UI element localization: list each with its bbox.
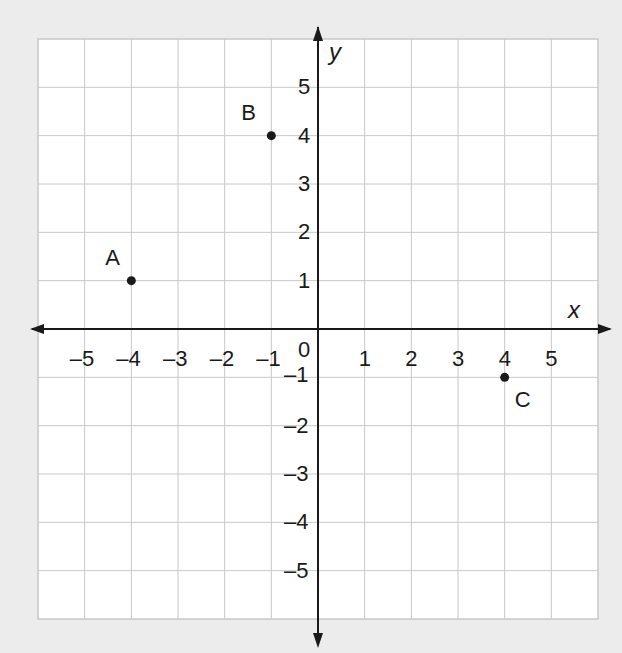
x-tick-label: 3 [452,348,464,370]
y-axis-down-arrow-icon [313,633,323,648]
y-tick-label: 1 [298,270,310,292]
y-tick-label: 4 [298,125,310,147]
point-a [127,276,136,285]
origin-label: 0 [298,339,310,361]
x-tick-label: 1 [359,348,371,370]
x-tick-label: –3 [163,348,187,370]
point-label-c: C [515,389,531,411]
y-tick-label: 5 [298,76,310,98]
y-tick-label: –5 [284,560,308,582]
y-tick-label: 2 [298,221,310,243]
y-tick-label: –2 [284,415,308,437]
x-axis-left-arrow-icon [30,324,44,334]
point-c [500,373,509,382]
point-label-b: B [241,102,256,124]
plot-svg [0,0,622,653]
y-tick-label: –1 [284,364,308,386]
x-tick-label: –1 [256,348,280,370]
coordinate-plane [0,0,622,653]
x-tick-label: 4 [499,348,511,370]
x-axis-label: x [568,298,580,322]
point-label-a: A [105,247,120,269]
x-tick-label: 2 [405,348,417,370]
x-tick-label: –2 [210,348,234,370]
y-tick-label: –4 [284,511,308,533]
y-tick-label: 3 [298,173,310,195]
point-b [267,131,276,140]
y-tick-label: –3 [284,463,308,485]
x-axis-right-arrow-icon [598,324,612,334]
y-axis-up-arrow-icon [313,26,323,41]
x-tick-label: –5 [70,348,94,370]
y-axis-label: y [329,40,341,64]
x-tick-label: 5 [545,348,557,370]
x-tick-label: –4 [116,348,140,370]
